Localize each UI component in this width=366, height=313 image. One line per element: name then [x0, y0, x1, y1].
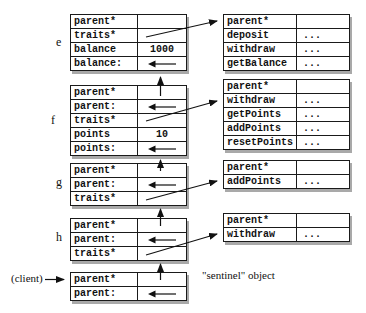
- slot-name: parent*: [71, 86, 138, 99]
- slot-row: traits*: [71, 246, 186, 260]
- slot-name: points: [71, 128, 138, 141]
- slot-row: points 10: [71, 127, 186, 141]
- slot-value: [138, 164, 186, 177]
- label-g: g: [56, 175, 62, 190]
- slot-value: [297, 161, 349, 174]
- slot-value: ...: [297, 228, 349, 241]
- slot-value: [138, 247, 186, 260]
- slot-name: withdraw: [224, 94, 297, 107]
- left-arrow-icon: [147, 145, 177, 153]
- slot-name: parent:: [71, 100, 138, 113]
- slot-row: parent*: [71, 15, 186, 28]
- left-arrow-icon: [147, 103, 177, 111]
- slot-value: [138, 29, 186, 42]
- slot-row: parent*: [71, 219, 186, 232]
- slot-row: parent*: [224, 80, 349, 93]
- slot-name: deposit: [224, 29, 297, 42]
- left-arrow-icon: [147, 181, 177, 189]
- slot-row: parent*: [71, 273, 186, 286]
- slot-row: withdraw ...: [224, 42, 349, 56]
- label-h: h: [56, 230, 62, 245]
- sentinel-label: "sentinel" object: [202, 269, 275, 281]
- slot-value: ...: [297, 43, 349, 56]
- slot-value: [138, 142, 186, 155]
- slot-value: ...: [297, 175, 349, 188]
- slot-row: parent*: [224, 15, 349, 28]
- slot-row: getBalance ...: [224, 56, 349, 70]
- slot-value: [297, 15, 349, 28]
- slot-value: [297, 80, 349, 93]
- slot-row: traits*: [71, 191, 186, 205]
- slot-value: 10: [138, 128, 186, 141]
- slot-name: addPoints: [224, 122, 297, 135]
- slot-row: parent:: [71, 286, 186, 300]
- slot-name: traits*: [71, 192, 138, 205]
- slot-name: parent*: [224, 80, 297, 93]
- slot-row: balance:: [71, 56, 186, 70]
- slot-name: traits*: [71, 29, 138, 42]
- slot-value: [138, 57, 186, 70]
- slot-name: withdraw: [224, 43, 297, 56]
- sentinel-object: parent* parent:: [70, 272, 187, 301]
- slot-name: balance: [71, 43, 138, 56]
- slot-name: parent*: [71, 219, 138, 232]
- addpoints-trait-object: parent* addPoints ...: [223, 160, 350, 189]
- slot-value: ...: [297, 57, 349, 70]
- slot-row: parent*: [71, 164, 186, 177]
- slot-row: balance 1000: [71, 42, 186, 56]
- slot-value: [138, 86, 186, 99]
- slot-value: [138, 233, 186, 246]
- label-f: f: [51, 113, 55, 128]
- slot-name: traits*: [71, 114, 138, 127]
- slot-row: traits*: [71, 113, 186, 127]
- slot-name: parent*: [71, 15, 138, 28]
- account-trait-object: parent* deposit ... withdraw ... getBala…: [223, 14, 350, 71]
- slot-row: addPoints ...: [224, 174, 349, 188]
- object-diagram: e f g h (client) "sentinel" object paren…: [0, 0, 366, 313]
- slot-row: withdraw ...: [224, 93, 349, 107]
- slot-name: balance:: [71, 57, 138, 70]
- slot-name: points:: [71, 142, 138, 155]
- left-arrow-icon: [147, 236, 177, 244]
- object-f: parent* parent: traits* points 10 points…: [70, 85, 187, 156]
- slot-name: parent*: [71, 273, 138, 286]
- slot-name: parent*: [224, 214, 297, 227]
- slot-value: ...: [297, 108, 349, 121]
- slot-value: ...: [297, 122, 349, 135]
- slot-name: getBalance: [224, 57, 297, 70]
- slot-row: withdraw ...: [224, 227, 349, 241]
- slot-row: parent*: [224, 214, 349, 227]
- slot-value: 1000: [138, 43, 186, 56]
- slot-name: parent:: [71, 233, 138, 246]
- slot-name: withdraw: [224, 228, 297, 241]
- slot-row: getPoints ...: [224, 107, 349, 121]
- slot-row: parent:: [71, 177, 186, 191]
- slot-row: resetPoints ...: [224, 135, 349, 149]
- label-e: e: [56, 35, 61, 50]
- points-trait-object: parent* withdraw ... getPoints ... addPo…: [223, 79, 350, 150]
- slot-value: ...: [297, 94, 349, 107]
- slot-value: ...: [297, 29, 349, 42]
- left-arrow-icon: [147, 290, 177, 298]
- slot-value: [138, 219, 186, 232]
- slot-name: parent:: [71, 178, 138, 191]
- slot-value: ...: [297, 136, 349, 149]
- slot-value: [138, 15, 186, 28]
- slot-row: parent:: [71, 99, 186, 113]
- slot-name: parent:: [71, 287, 138, 300]
- object-e: parent* traits* balance 1000 balance:: [70, 14, 187, 71]
- slot-value: [138, 287, 186, 300]
- slot-name: traits*: [71, 247, 138, 260]
- slot-row: deposit ...: [224, 28, 349, 42]
- left-arrow-icon: [147, 60, 177, 68]
- slot-value: [138, 114, 186, 127]
- slot-value: [138, 273, 186, 286]
- slot-value: [138, 192, 186, 205]
- withdraw-trait-object: parent* withdraw ...: [223, 213, 350, 242]
- slot-name: parent*: [71, 164, 138, 177]
- slot-name: parent*: [224, 161, 297, 174]
- object-g: parent* parent: traits*: [70, 163, 187, 206]
- slot-row: parent*: [71, 86, 186, 99]
- client-label: (client): [11, 272, 43, 284]
- slot-value: [297, 214, 349, 227]
